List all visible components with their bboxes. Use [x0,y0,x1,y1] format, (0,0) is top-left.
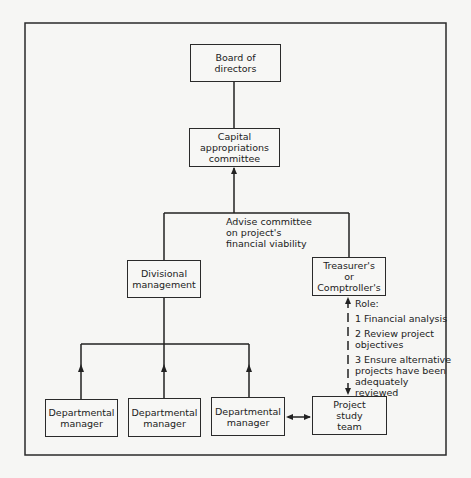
node-divisional-management: Divisional management [127,260,201,298]
arrowhead-dept3 [246,364,252,372]
node-treasurer-or-comptroller: Treasurer's or Comptroller's [312,257,386,296]
role-item-2: 2 Review project objectives [355,328,434,350]
node-departmental-manager-2: Departmental manager [128,398,201,437]
node-departmental-manager-1: Departmental manager [45,399,118,437]
annotation-advise-committee: Advise committee on project's financial … [226,216,312,249]
role-item-1: 1 Financial analysis [355,313,447,324]
node-board-of-directors: Board of directors [190,44,281,82]
node-capital-appropriations-committee: Capital appropriations committee [189,128,280,167]
arrowhead-dept1 [78,364,84,372]
node-departmental-manager-3: Departmental manager [211,397,285,436]
role-item-3: 3 Ensure alternative projects have been … [355,354,451,398]
node-project-study-team: Project study team [312,396,387,435]
arrowhead-dept2 [161,364,167,372]
role-title: Role: [355,298,379,309]
